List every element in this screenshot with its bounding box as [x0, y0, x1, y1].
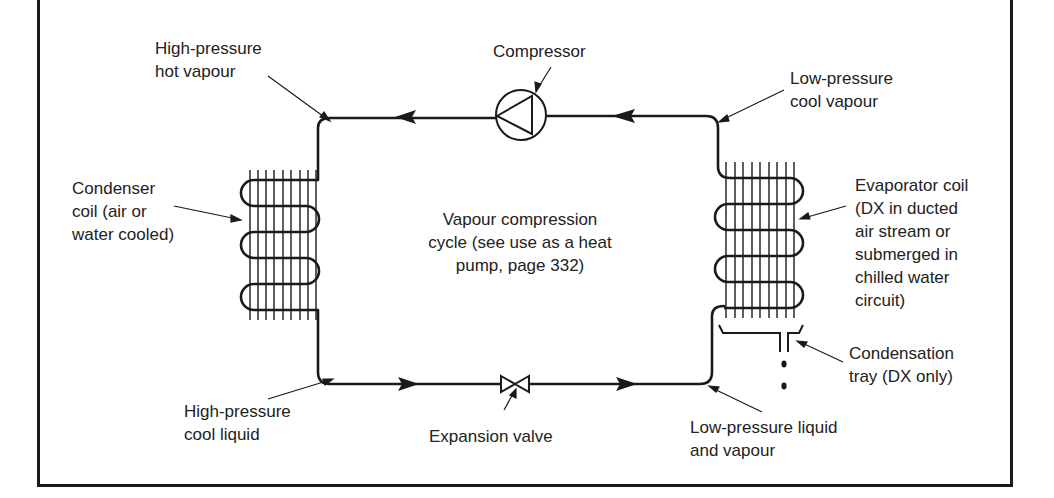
label-line: coil (air or: [72, 200, 174, 223]
leader-tray: [800, 342, 843, 362]
bottom-pipe-left: [318, 310, 500, 384]
leader-hp-hot: [268, 76, 327, 119]
label-line: chilled water: [855, 266, 968, 289]
label-line: Expansion valve: [429, 425, 553, 448]
top-pipe-left: [318, 118, 496, 180]
leader-condenser: [174, 206, 237, 219]
evaporator-fins: [726, 162, 794, 318]
label-line: Condensation: [849, 342, 954, 365]
label-line: pump, page 332): [408, 254, 632, 277]
condensation-tray: [719, 325, 803, 352]
drip-icons: [781, 361, 786, 390]
label-evaporator-coil: Evaporator coil (DX in ducted air stream…: [855, 174, 968, 312]
label-line: High-pressure: [184, 400, 291, 423]
label-compressor: Compressor: [493, 40, 586, 63]
label-cycle-note: Vapour compression cycle (see use as a h…: [408, 208, 632, 277]
label-lp-cool-vapour: Low-pressure cool vapour: [790, 67, 893, 113]
condenser-fins: [250, 170, 316, 320]
label-condenser-coil: Condenser coil (air or water cooled): [72, 177, 174, 246]
label-line: Compressor: [493, 40, 586, 63]
bottom-pipe-right: [530, 306, 724, 384]
label-line: cool liquid: [184, 423, 291, 446]
label-line: Evaporator coil: [855, 174, 968, 197]
label-line: (DX in ducted: [855, 197, 968, 220]
label-line: Condenser: [72, 177, 174, 200]
label-line: cycle (see use as a heat: [408, 231, 632, 254]
label-line: tray (DX only): [849, 365, 954, 388]
label-expansion-valve: Expansion valve: [429, 425, 553, 448]
evaporator-coil: [715, 178, 803, 308]
leader-evaporator: [804, 206, 846, 218]
label-line: Low-pressure liquid: [690, 416, 837, 439]
label-condensation-tray: Condensation tray (DX only): [849, 342, 954, 388]
label-line: circuit): [855, 289, 968, 312]
label-line: and vapour: [690, 439, 837, 462]
label-line: High-pressure: [155, 37, 262, 60]
label-line: hot vapour: [155, 60, 262, 83]
leader-lp-cool: [722, 90, 784, 120]
compressor-icon: [496, 90, 546, 140]
label-line: air stream or: [855, 220, 968, 243]
label-hp-cool-liquid: High-pressure cool liquid: [184, 400, 291, 446]
label-line: Vapour compression: [408, 208, 632, 231]
label-line: water cooled): [72, 223, 174, 246]
label-hp-hot-vapour: High-pressure hot vapour: [155, 37, 262, 83]
leader-lp-liquid: [712, 388, 762, 412]
label-lp-liquid-vapour: Low-pressure liquid and vapour: [690, 416, 837, 462]
top-pipe-right: [547, 116, 730, 178]
label-line: submerged in: [855, 243, 968, 266]
leader-hp-cool: [268, 380, 330, 399]
label-line: cool vapour: [790, 90, 893, 113]
label-line: Low-pressure: [790, 67, 893, 90]
